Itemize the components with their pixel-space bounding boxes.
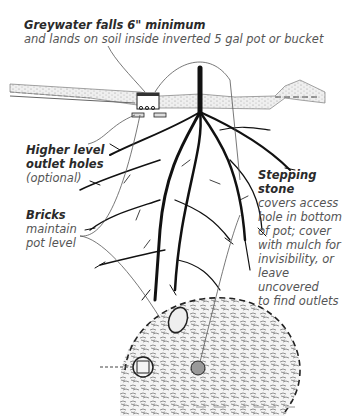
greywater-title: Greywater falls 6" minimum	[24, 18, 323, 32]
bricks-desc-2: pot level	[26, 236, 77, 250]
greywater-label: Greywater falls 6" minimum and lands on …	[24, 18, 323, 46]
stone-title-2: stone	[258, 182, 352, 196]
stone-desc-2: of pot; cover	[258, 224, 352, 238]
outlet-title-2: outlet holes	[26, 157, 104, 171]
stone-title-1: Stepping	[258, 168, 352, 182]
stone-desc-1: hole in bottom	[258, 210, 352, 224]
mulch-basin-plan	[100, 298, 300, 416]
stone-desc-5: leave uncovered	[258, 266, 352, 294]
stepping-stone-label: Stepping stone covers access hole in bot…	[258, 168, 352, 308]
stone-desc-4: invisibility, or	[258, 252, 352, 266]
bricks-title: Bricks	[26, 208, 77, 222]
bricks-desc-1: maintain	[26, 222, 77, 236]
outlet-desc: (optional)	[26, 171, 104, 185]
outlet-title-1: Higher level	[26, 143, 104, 157]
bricks-label: Bricks maintain pot level	[26, 208, 77, 250]
stone-desc-3: with mulch for	[258, 238, 352, 252]
stone-desc-6: to find outlets	[258, 294, 352, 308]
greywater-desc: and lands on soil inside inverted 5 gal …	[24, 32, 323, 46]
stone-desc-0: covers access	[258, 196, 352, 210]
ground-surface	[10, 80, 325, 109]
outlet-holes-label: Higher level outlet holes (optional)	[26, 143, 104, 185]
